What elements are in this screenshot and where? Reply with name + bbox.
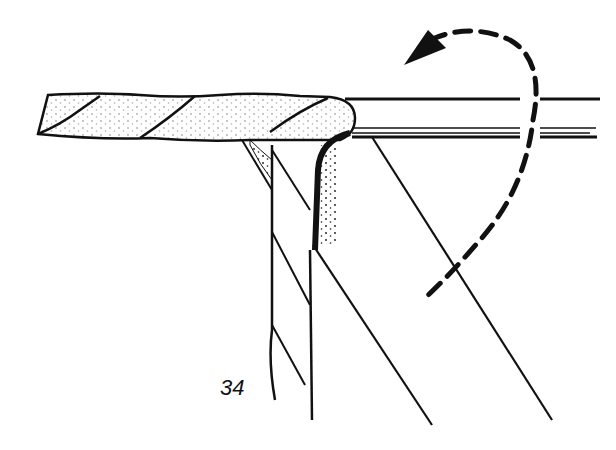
knot-illustration [0, 0, 616, 450]
horizontal-rope [38, 94, 355, 141]
horizontal-bar [345, 99, 600, 137]
rotation-arrow-icon [404, 30, 536, 298]
illustration-canvas: 34 [0, 0, 616, 450]
figure-number: 34 [220, 375, 244, 401]
